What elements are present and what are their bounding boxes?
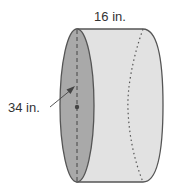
diameter-label: 34 in. bbox=[8, 100, 40, 115]
cylinder-diagram: 16 in. 34 in. bbox=[0, 0, 173, 195]
center-point bbox=[75, 105, 79, 109]
length-label: 16 in. bbox=[94, 9, 126, 24]
